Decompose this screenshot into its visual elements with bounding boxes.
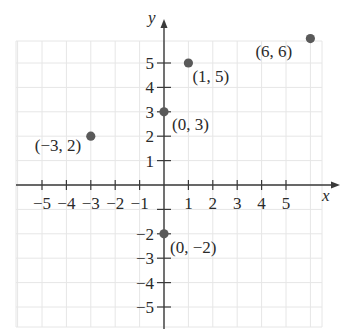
- x-tick-label: −1: [131, 194, 149, 213]
- coordinate-plane: −5−4−3−2−112345−5−4−3−212345 (−3, 2)(0, …: [0, 0, 347, 329]
- y-axis-arrow-icon: [161, 19, 168, 28]
- x-tick-label: 2: [209, 194, 218, 213]
- data-point: [159, 107, 168, 116]
- x-tick-label: −3: [82, 194, 100, 213]
- x-tick-label: 5: [282, 194, 291, 213]
- y-tick-label: −2: [136, 225, 154, 244]
- y-tick-label: −5: [136, 298, 154, 317]
- y-tick-label: −4: [136, 274, 155, 293]
- y-tick-label: −3: [136, 249, 154, 268]
- y-axis-label: y: [146, 8, 156, 27]
- y-tick-label: 3: [146, 103, 155, 122]
- y-tick-label: 5: [146, 54, 155, 73]
- x-tick-label: −2: [106, 194, 124, 213]
- grid-lines: [16, 41, 322, 327]
- data-point: [159, 229, 168, 238]
- x-axis-label: x: [321, 186, 330, 205]
- point-label: (6, 6): [255, 42, 292, 61]
- point-label: (0, −2): [170, 238, 216, 257]
- x-tick-label: 3: [233, 194, 242, 213]
- x-axis-arrow-icon: [331, 182, 340, 189]
- data-point: [306, 34, 315, 43]
- y-tick-label: 1: [146, 152, 155, 171]
- x-tick-label: −5: [33, 194, 51, 213]
- x-tick-label: 4: [257, 194, 266, 213]
- x-tick-label: 1: [184, 194, 193, 213]
- point-label: (1, 5): [192, 67, 229, 86]
- x-tick-label: −4: [57, 194, 76, 213]
- point-label: (0, 3): [172, 115, 209, 134]
- y-tick-label: 4: [146, 78, 155, 97]
- data-point: [86, 132, 95, 141]
- point-label: (−3, 2): [35, 136, 81, 155]
- y-tick-label: 2: [146, 127, 155, 146]
